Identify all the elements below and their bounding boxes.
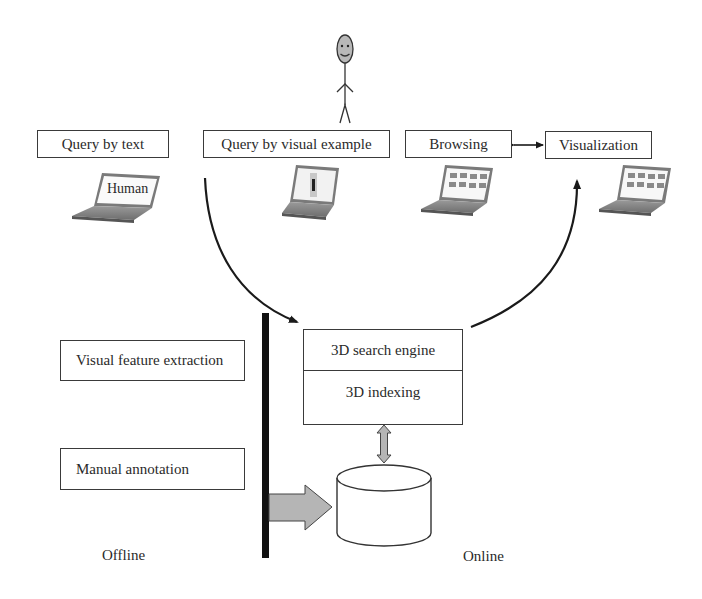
query-by-text-box: Query by text bbox=[37, 130, 169, 158]
online-zone-label: Online bbox=[463, 548, 504, 565]
user-icon bbox=[337, 35, 353, 123]
diagram-canvas bbox=[0, 0, 702, 599]
offline-zone-label: Offline bbox=[102, 547, 145, 564]
query-by-visual-example-box: Query by visual example bbox=[203, 130, 390, 158]
laptop-screen-label-human: Human bbox=[107, 181, 148, 197]
indexing-label: 3D indexing bbox=[346, 384, 421, 401]
engine-db-arrow bbox=[377, 425, 391, 463]
indexing-cell: 3D indexing bbox=[304, 371, 462, 423]
visualization-box: Visualization bbox=[545, 131, 652, 159]
manual-annotation-box: Manual annotation bbox=[60, 448, 245, 490]
visualization-label: Visualization bbox=[559, 137, 638, 154]
query-by-visual-example-label: Query by visual example bbox=[221, 136, 371, 153]
ingest-arrow bbox=[269, 485, 332, 530]
search-engine-stack: 3D search engine 3D indexing bbox=[303, 329, 463, 425]
database-icon bbox=[337, 465, 431, 546]
offline-online-divider bbox=[262, 313, 269, 558]
laptop-icon-browsing bbox=[421, 165, 493, 216]
laptop-icon-query-visual bbox=[282, 165, 339, 220]
browsing-box: Browsing bbox=[405, 130, 512, 158]
query-by-text-label: Query by text bbox=[62, 136, 144, 153]
manual-annotation-label: Manual annotation bbox=[76, 461, 189, 478]
visual-feature-extraction-label: Visual feature extraction bbox=[76, 352, 223, 369]
search-engine-cell: 3D search engine bbox=[304, 330, 462, 371]
visual-feature-extraction-box: Visual feature extraction bbox=[60, 340, 245, 381]
query-flow-arrow bbox=[205, 178, 297, 322]
browsing-label: Browsing bbox=[429, 136, 487, 153]
search-engine-label: 3D search engine bbox=[331, 342, 435, 359]
laptop-icon-visualization bbox=[599, 165, 671, 216]
